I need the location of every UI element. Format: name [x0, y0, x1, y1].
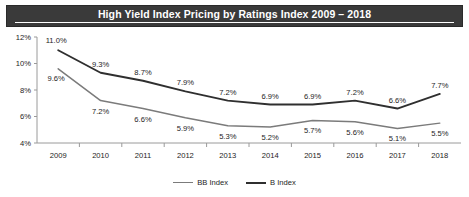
x-tick-label: 2017 — [389, 151, 406, 160]
point-label-bb-index-2010: 7.2% — [92, 107, 110, 116]
y-tick-label: 8% — [20, 86, 31, 95]
y-tick-label: 4% — [20, 139, 31, 148]
point-label-b-index-2009: 11.0% — [46, 36, 67, 45]
series-line-bb-index — [58, 69, 440, 129]
point-label-bb-index-2013: 5.3% — [219, 132, 237, 141]
y-tick-label: 10% — [16, 59, 31, 68]
x-tick-label: 2009 — [50, 151, 67, 160]
legend-label: BB Index — [197, 178, 228, 187]
x-axis: 2009201020112012201320142015201620172018 — [37, 143, 461, 160]
point-label-bb-index-2016: 5.6% — [346, 128, 364, 137]
page-title: High Yield Index Pricing by Ratings Inde… — [7, 8, 462, 20]
chart-legend: BB IndexB Index — [0, 178, 469, 187]
x-tick-label: 2011 — [135, 151, 151, 160]
x-tick-label: 2015 — [304, 151, 321, 160]
legend-swatch-icon — [246, 182, 266, 184]
series-lines — [58, 50, 440, 128]
point-label-b-index-2016: 7.2% — [346, 88, 364, 97]
title-underline — [15, 22, 454, 24]
point-label-bb-index-2012: 5.9% — [177, 124, 195, 133]
x-tick-label: 2012 — [177, 151, 194, 160]
x-tick-label: 2018 — [431, 151, 448, 160]
legend-item-b-index[interactable]: B Index — [246, 178, 296, 187]
chart-figure: High Yield Index Pricing by Ratings Inde… — [0, 0, 469, 197]
legend-item-bb-index[interactable]: BB Index — [173, 178, 228, 187]
legend-label: B Index — [270, 178, 296, 187]
point-label-b-index-2012: 7.9% — [177, 78, 195, 87]
y-tick-label: 12% — [16, 33, 31, 42]
point-label-bb-index-2009: 9.6% — [48, 74, 66, 83]
point-label-bb-index-2018: 5.5% — [431, 129, 449, 138]
chart-title-bar: High Yield Index Pricing by Ratings Inde… — [6, 5, 463, 27]
legend-swatch-icon — [173, 182, 193, 183]
plot-area: 4%6%8%10%12% 200920102011201220132014201… — [0, 27, 469, 173]
point-label-bb-index-2011: 6.6% — [134, 115, 152, 124]
point-label-b-index-2018: 7.7% — [431, 81, 449, 90]
point-label-bb-index-2017: 5.1% — [389, 134, 407, 143]
point-label-b-index-2017: 6.6% — [389, 96, 407, 105]
point-label-bb-index-2015: 5.7% — [304, 126, 322, 135]
point-label-b-index-2015: 6.9% — [304, 92, 322, 101]
y-tick-label: 6% — [20, 112, 31, 121]
point-label-bb-index-2014: 5.2% — [262, 133, 280, 142]
point-label-b-index-2010: 9.3% — [92, 60, 110, 69]
point-label-b-index-2011: 8.7% — [134, 68, 152, 77]
x-tick-label: 2010 — [92, 151, 109, 160]
point-label-b-index-2013: 7.2% — [219, 88, 237, 97]
point-label-b-index-2014: 6.9% — [262, 92, 280, 101]
x-tick-label: 2016 — [347, 151, 364, 160]
line-chart-svg: 4%6%8%10%12% 200920102011201220132014201… — [0, 27, 469, 173]
x-tick-label: 2013 — [219, 151, 236, 160]
series-line-b-index — [58, 50, 440, 108]
x-tick-label: 2014 — [262, 151, 279, 160]
y-axis: 4%6%8%10%12% — [16, 33, 37, 148]
